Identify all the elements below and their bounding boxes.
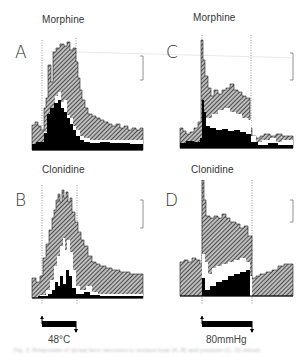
panel-b-title: Clonidine — [42, 164, 85, 175]
panel-a-title: Morphine — [42, 14, 85, 25]
stimulus-label-pressure: 80mmHg — [206, 334, 247, 345]
histogram-panel-a — [0, 35, 150, 155]
stimulus-bar-pressure — [199, 316, 269, 336]
stimulus-label-heat: 48°C — [48, 334, 70, 345]
figure-caption: Fig. 3. Responses of dorsal horn neurone… — [14, 347, 294, 353]
stimulus-bar-heat — [38, 316, 108, 336]
panel-c-title: Morphine — [193, 12, 236, 23]
histogram-panel-b — [0, 180, 150, 305]
histogram-panel-c — [154, 35, 304, 155]
histogram-panel-d — [154, 180, 304, 305]
panel-d-title: Clonidine — [191, 164, 234, 175]
